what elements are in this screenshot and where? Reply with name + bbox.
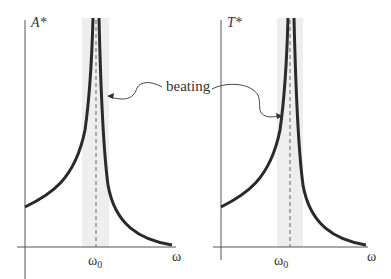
omega0-subscript: 0 xyxy=(97,259,102,270)
beating-annotation: beating xyxy=(166,78,210,95)
omega0-subscript: 0 xyxy=(283,259,288,270)
omega0-symbol: ω xyxy=(88,253,97,268)
y-axis-label-right: T* xyxy=(227,15,242,31)
beating-arrow-right xyxy=(212,84,280,117)
omega0-symbol: ω xyxy=(274,253,283,268)
right-panel xyxy=(213,18,368,260)
omega0-tick-right: ω0 xyxy=(274,253,288,270)
amplitude-curve-right-branch xyxy=(99,18,172,245)
beating-arrow-left xyxy=(110,83,162,99)
resonance-diagram xyxy=(0,0,391,279)
y-axis-label-left: A* xyxy=(31,15,47,31)
left-panel xyxy=(17,18,176,279)
torque-curve-right-branch xyxy=(294,18,366,245)
omega-axis-label-left: ω xyxy=(172,249,181,265)
omega-axis-label-right: ω xyxy=(367,249,376,265)
omega0-tick-left: ω0 xyxy=(88,253,102,270)
